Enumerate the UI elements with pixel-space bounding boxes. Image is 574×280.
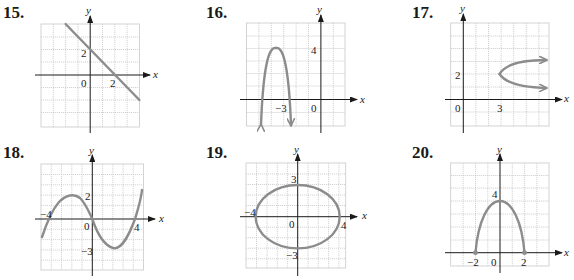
y-axis-label: y: [293, 143, 299, 155]
x-axis-label: x: [361, 209, 367, 221]
y-axis-label: y: [459, 2, 465, 14]
tick-label-y-2: 2: [81, 47, 87, 59]
x-axis-label: x: [563, 246, 569, 258]
tick-label-y-2: 2: [85, 190, 91, 202]
y-axis-label: y: [496, 143, 502, 155]
tick-label-origin: 0: [455, 102, 461, 114]
tick-label-origin: 0: [84, 220, 90, 232]
tick-label-origin: 0: [311, 102, 317, 114]
tick-label-y-neg3: −3: [286, 249, 298, 261]
tick-label-x-neg4: −4: [244, 206, 256, 218]
x-axis-label: x: [158, 212, 164, 224]
tick-label-y-neg3: −3: [81, 245, 93, 257]
tick-label-origin: 0: [81, 77, 87, 89]
tick-label-x-neg2: −2: [467, 256, 479, 268]
x-axis-label: x: [152, 68, 158, 80]
endpoint-left: [473, 250, 478, 255]
y-axis-label: y: [88, 144, 94, 156]
tick-label-x-2: 2: [110, 77, 116, 89]
tick-label-x-2: 2: [521, 256, 527, 268]
y-axis-label: y: [85, 4, 91, 16]
parabola-curve: [261, 48, 276, 125]
graphs-canvas: x y 2 0 2 x y 4 −3 0: [0, 0, 574, 280]
endpoint-right: [522, 250, 527, 255]
graph-19: x y 3 −4 0 4 −3: [240, 143, 367, 276]
tick-label-x-neg3: −3: [275, 102, 287, 114]
graph-20: x y 4 −2 0 2: [445, 143, 569, 273]
tick-label-y-3: 3: [291, 173, 297, 185]
x-axis-label: x: [563, 92, 569, 104]
graph-16: x y 4 −3 0: [240, 3, 365, 133]
tick-label-y-4: 4: [311, 44, 317, 56]
x-axis-label: x: [359, 93, 365, 105]
graph-17: x y 2 0 3: [445, 2, 569, 133]
tick-label-x-4: 4: [134, 221, 140, 233]
tick-label-origin: 0: [289, 218, 295, 230]
tick-label-x-4: 4: [341, 219, 347, 231]
graph-15: x y 2 0 2: [35, 4, 158, 133]
tick-label-y-2: 2: [455, 69, 461, 81]
graph-18: x y 2 −4 0 4 −3: [35, 144, 164, 276]
y-axis-label: y: [316, 3, 322, 15]
tick-label-origin: 0: [491, 256, 497, 268]
tick-label-x-3: 3: [497, 102, 503, 114]
tick-label-y-4: 4: [492, 188, 498, 200]
tick-label-x-neg4: −4: [40, 208, 52, 220]
